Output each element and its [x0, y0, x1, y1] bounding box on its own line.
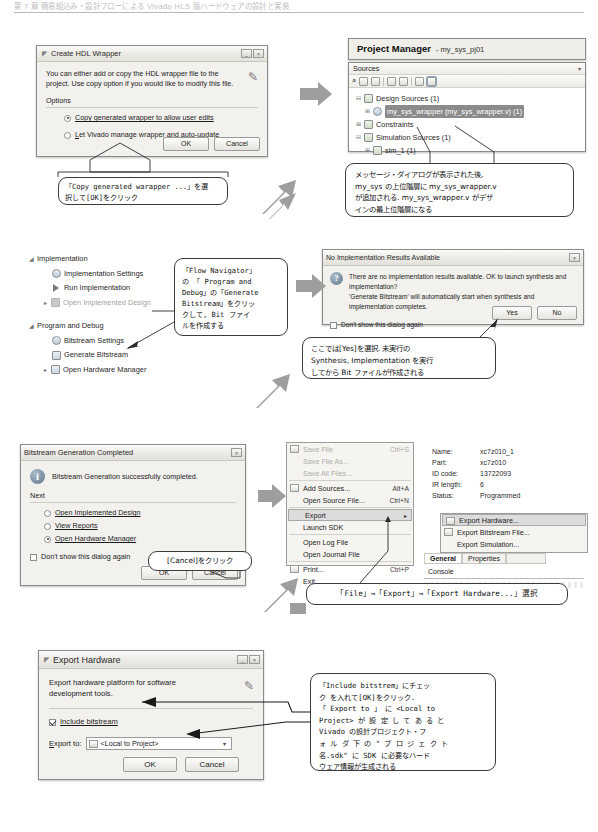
options-label: Options — [46, 96, 258, 106]
export-submenu[interactable]: Export Hardware... Export Bitstream File… — [440, 513, 588, 553]
radio-icon[interactable] — [64, 132, 71, 139]
properties-tabs[interactable]: General Properties — [424, 553, 546, 564]
include-bitstream-label: Include bitstream — [60, 717, 118, 727]
window-buttons[interactable]: × — [231, 448, 242, 457]
add-sources-icon[interactable] — [399, 77, 408, 86]
chevron-down-icon[interactable]: ▾ — [220, 740, 229, 747]
radio-icon[interactable] — [44, 523, 51, 530]
menu-item-label: Open Source File... — [303, 496, 365, 505]
tree-item-bitstream-settings[interactable]: Bitstream Settings — [28, 334, 198, 349]
window-buttons[interactable]: _ × — [241, 49, 264, 58]
tree-item-simulation-sources[interactable]: ⊟ Simulation Sources (1) — [353, 131, 581, 144]
tree-item-open-hardware-manager[interactable]: ▸ Open Hardware Manager — [28, 363, 198, 378]
hierarchy-icon[interactable] — [427, 77, 436, 86]
property-key: Part: — [432, 457, 474, 468]
expander-icon[interactable]: ⊞ — [364, 105, 370, 118]
tree-item-implementation-settings[interactable]: Implementation Settings — [28, 267, 198, 282]
menu-item-save-file-as[interactable]: Save File As... — [287, 455, 413, 467]
checkbox-icon[interactable] — [49, 719, 56, 726]
expander-icon[interactable]: ◢ — [28, 252, 34, 267]
menu-item-export-simulation[interactable]: Export Simulation... — [441, 538, 587, 550]
menu-item-open-source-file[interactable]: Open Source File... Ctrl+N — [287, 494, 413, 506]
tree-item-design-sources[interactable]: ⊟ Design Sources (1) — [353, 92, 581, 105]
close-icon[interactable]: × — [231, 448, 242, 457]
menu-item-save-file[interactable]: Save File Ctrl+S — [287, 443, 413, 455]
tree-item-sim-1[interactable]: ⊞ sim_1 (1) — [353, 144, 581, 157]
dont-show-again-row[interactable]: Don't show this dialog again — [330, 320, 576, 330]
close-icon[interactable]: × — [253, 49, 264, 58]
close-icon[interactable]: × — [249, 655, 260, 664]
menu-item-open-log-file[interactable]: Open Log File — [287, 536, 413, 548]
expander-icon[interactable]: ▸ — [42, 296, 48, 311]
property-row: Name:xc7z010_1 — [432, 446, 582, 457]
dialog-title: Create HDL Wrapper — [51, 49, 238, 58]
menu-item-label: Export — [305, 511, 326, 520]
radio-icon[interactable] — [64, 115, 71, 122]
expander-icon[interactable]: ⊞ — [364, 144, 370, 157]
cancel-button[interactable]: Cancel — [185, 757, 239, 772]
question-icon: ? — [330, 272, 343, 285]
option-open-implemented-design[interactable]: Open Implemented Design — [44, 508, 236, 518]
menu-item-export-bitstream-file[interactable]: Export Bitstream File... — [441, 526, 587, 538]
tab-properties[interactable]: Properties — [462, 554, 506, 564]
window-buttons[interactable]: _ × — [237, 655, 260, 664]
header-rule — [14, 12, 584, 13]
include-bitstream-row[interactable]: Include bitstream — [49, 717, 253, 727]
expander-icon[interactable]: ⊞ — [355, 118, 361, 131]
tree-item-my-sys-wrapper[interactable]: ⊞ my_sys_wrapper (my_sys_wrapper.v) (1) — [353, 105, 581, 118]
checkbox-icon[interactable] — [30, 554, 37, 561]
expand-all-icon[interactable] — [371, 77, 380, 86]
tree-item-constraints[interactable]: ⊞ Constraints — [353, 118, 581, 131]
menu-item-export[interactable]: Export ▸ — [288, 509, 412, 521]
property-row: Status:Programmed — [432, 490, 582, 501]
new-file-icon[interactable] — [415, 77, 424, 86]
sources-toolbar[interactable]: ⌕ — [349, 75, 585, 88]
flow-navigator-tree[interactable]: ◢ Implementation Implementation Settings… — [28, 252, 198, 377]
tree-item-implementation[interactable]: ◢ Implementation — [28, 252, 198, 267]
search-icon[interactable]: ⌕ — [352, 76, 356, 86]
checkbox-icon[interactable] — [330, 322, 337, 329]
minimize-icon[interactable]: _ — [237, 655, 248, 664]
option-open-hardware-manager[interactable]: Open Hardware Manager — [44, 534, 236, 544]
sources-tree[interactable]: ⊟ Design Sources (1) ⊞ my_sys_wrapper (m… — [349, 88, 585, 161]
close-icon[interactable]: × — [569, 253, 580, 262]
tree-item-generate-bitstream[interactable]: Generate Bitstream — [28, 348, 198, 363]
minimize-icon[interactable]: _ — [241, 49, 252, 58]
open-file-icon[interactable] — [387, 77, 396, 86]
option-copy-wrapper[interactable]: Copy generated wrapper to allow user edi… — [64, 113, 258, 123]
window-buttons[interactable]: × — [569, 253, 580, 262]
gear-icon — [52, 336, 61, 345]
export-to-row[interactable]: Export to: <Local to Project> ▾ — [49, 737, 253, 750]
info-icon: i — [30, 469, 45, 484]
yes-button[interactable]: Yes — [492, 306, 532, 320]
panel-menu-icon[interactable]: ▾ — [578, 65, 581, 72]
file-menu[interactable]: Save File Ctrl+S Save File As... Save Al… — [286, 442, 414, 566]
tree-item-run-implementation[interactable]: Run Implementation — [28, 281, 198, 296]
tree-item-open-implemented-design[interactable]: ▸ Open Implemented Design — [28, 296, 198, 311]
option-view-reports[interactable]: View Reports — [44, 521, 236, 531]
collapse-all-icon[interactable] — [359, 77, 368, 86]
menu-item-save-all-files[interactable]: Save All Files... — [287, 467, 413, 479]
menu-item-print[interactable]: Print... Ctrl+P — [287, 563, 413, 575]
project-manager-header: Project Manager - my_sys_pj01 — [348, 38, 586, 60]
module-icon — [373, 107, 382, 116]
expander-icon[interactable]: ▸ — [42, 363, 48, 378]
no-button[interactable]: No — [537, 306, 577, 320]
menu-item-add-sources[interactable]: Add Sources... Alt+A — [287, 482, 413, 494]
expander-icon[interactable]: ⊟ — [355, 92, 361, 105]
radio-icon[interactable] — [44, 536, 51, 543]
export-to-combobox[interactable]: <Local to Project> ▾ — [86, 737, 232, 750]
ok-button[interactable]: OK — [123, 757, 177, 772]
expander-icon[interactable]: ◢ — [28, 319, 34, 334]
menu-item-export-hardware[interactable]: Export Hardware... — [442, 514, 586, 526]
tab-empty[interactable] — [506, 554, 546, 564]
print-icon — [290, 565, 299, 573]
tab-general[interactable]: General — [424, 554, 462, 564]
menu-item-launch-sdk[interactable]: Launch SDK — [287, 521, 413, 533]
expander-icon[interactable]: ⊟ — [355, 131, 361, 144]
menu-item-open-journal-file[interactable]: Open Journal File — [287, 548, 413, 560]
radio-icon[interactable] — [44, 510, 51, 517]
tree-item-program-and-debug[interactable]: ◢ Program and Debug — [28, 319, 198, 334]
cancel-button[interactable]: Cancel — [214, 137, 260, 151]
ok-button[interactable]: OK — [163, 137, 209, 151]
